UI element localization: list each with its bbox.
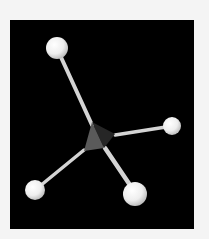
hydrogen-atom-bottom-left bbox=[25, 180, 45, 200]
hydrogen-atom-bottom-right bbox=[123, 182, 147, 206]
hydrogen-atom-top bbox=[46, 37, 68, 59]
molecule-figure bbox=[0, 0, 209, 239]
hydrogen-atom-right bbox=[163, 117, 181, 135]
